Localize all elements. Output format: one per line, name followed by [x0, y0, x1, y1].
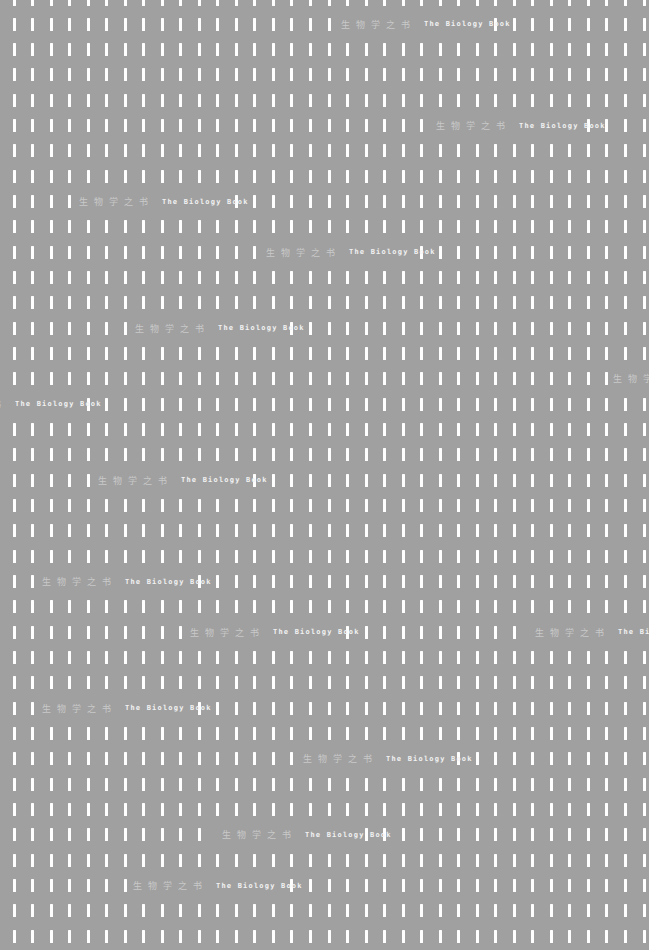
- dash-mark: [624, 803, 627, 816]
- title-english: The Biology Book: [424, 20, 511, 28]
- title-chinese: 生物学之书: [266, 246, 341, 259]
- dash-mark: [216, 803, 219, 816]
- dash-mark: [513, 68, 516, 81]
- dash-mark: [624, 119, 627, 132]
- dash-mark: [346, 904, 349, 917]
- dash-mark: [643, 448, 646, 461]
- dash-mark: [161, 372, 164, 385]
- dash-mark: [253, 94, 256, 107]
- dash-mark: [457, 879, 460, 892]
- dash-mark: [513, 626, 516, 639]
- book-title-label: 生物学之书The Biology Book: [436, 119, 606, 133]
- dash-mark: [31, 474, 34, 487]
- dash-mark: [272, 676, 275, 689]
- dash-mark: [605, 702, 608, 715]
- dash-mark: [494, 423, 497, 436]
- dash-mark: [179, 600, 182, 613]
- dash-mark: [457, 271, 460, 284]
- dash-mark: [179, 423, 182, 436]
- dash-mark: [402, 68, 405, 81]
- dash-mark: [328, 930, 331, 943]
- dash-mark: [605, 68, 608, 81]
- dash-mark: [124, 372, 127, 385]
- title-english: The Biology Book: [181, 476, 268, 484]
- dash-mark: [105, 550, 108, 563]
- dash-mark: [513, 347, 516, 360]
- dash-mark: [550, 575, 553, 588]
- dash-mark: [105, 778, 108, 791]
- dash-mark: [568, 904, 571, 917]
- dash-mark: [142, 18, 145, 31]
- dash-mark: [161, 94, 164, 107]
- dash-mark: [346, 676, 349, 689]
- dash-mark: [531, 347, 534, 360]
- dash-mark: [624, 524, 627, 537]
- dash-mark: [272, 904, 275, 917]
- dash-mark: [105, 752, 108, 765]
- dash-mark: [179, 828, 182, 841]
- dash-mark: [494, 676, 497, 689]
- dash-mark: [161, 220, 164, 233]
- dash-mark: [68, 600, 71, 613]
- dash-mark: [550, 220, 553, 233]
- dash-mark: [253, 702, 256, 715]
- dash-mark: [587, 778, 590, 791]
- dash-mark: [142, 448, 145, 461]
- dash-mark: [531, 94, 534, 107]
- dash-mark: [124, 423, 127, 436]
- dash-mark: [513, 322, 516, 335]
- dash-mark: [68, 144, 71, 157]
- dash-mark: [290, 550, 293, 563]
- dash-mark: [346, 879, 349, 892]
- dash-mark: [124, 170, 127, 183]
- dash-mark: [365, 474, 368, 487]
- dash-mark: [568, 854, 571, 867]
- dash-mark: [216, 727, 219, 740]
- dash-mark: [568, 651, 571, 664]
- dash-mark: [105, 676, 108, 689]
- dash-mark: [13, 854, 16, 867]
- dash-mark: [439, 144, 442, 157]
- dash-mark: [13, 676, 16, 689]
- dash-mark: [568, 575, 571, 588]
- dash-mark: [643, 271, 646, 284]
- dash-mark: [439, 651, 442, 664]
- dash-mark: [568, 195, 571, 208]
- dash-mark: [531, 854, 534, 867]
- dash-mark: [439, 170, 442, 183]
- dash-mark: [328, 18, 331, 31]
- dash-mark: [179, 0, 182, 6]
- dash-mark: [87, 448, 90, 461]
- dash-mark: [235, 144, 238, 157]
- dash-mark: [142, 0, 145, 6]
- dash-mark: [587, 220, 590, 233]
- dash-mark: [365, 220, 368, 233]
- dash-mark: [476, 702, 479, 715]
- dash-mark: [587, 170, 590, 183]
- dash-mark: [420, 119, 423, 132]
- dash-mark: [568, 448, 571, 461]
- dash-mark: [87, 347, 90, 360]
- dash-mark: [253, 676, 256, 689]
- dash-mark: [439, 575, 442, 588]
- dash-mark: [87, 524, 90, 537]
- dash-mark: [402, 398, 405, 411]
- dash-mark: [105, 930, 108, 943]
- dash-mark: [402, 296, 405, 309]
- dash-mark: [216, 448, 219, 461]
- dash-mark: [290, 930, 293, 943]
- dash-mark: [420, 170, 423, 183]
- dash-mark: [568, 220, 571, 233]
- dash-mark: [365, 524, 368, 537]
- dash-mark: [550, 43, 553, 56]
- dash-mark: [587, 524, 590, 537]
- dash-mark: [31, 296, 34, 309]
- dash-mark: [253, 803, 256, 816]
- title-chinese: 生物学之书: [303, 752, 378, 765]
- dash-mark: [328, 727, 331, 740]
- dash-mark: [68, 778, 71, 791]
- dash-mark: [587, 904, 590, 917]
- dash-mark: [550, 423, 553, 436]
- dash-mark: [605, 448, 608, 461]
- dash-mark: [457, 170, 460, 183]
